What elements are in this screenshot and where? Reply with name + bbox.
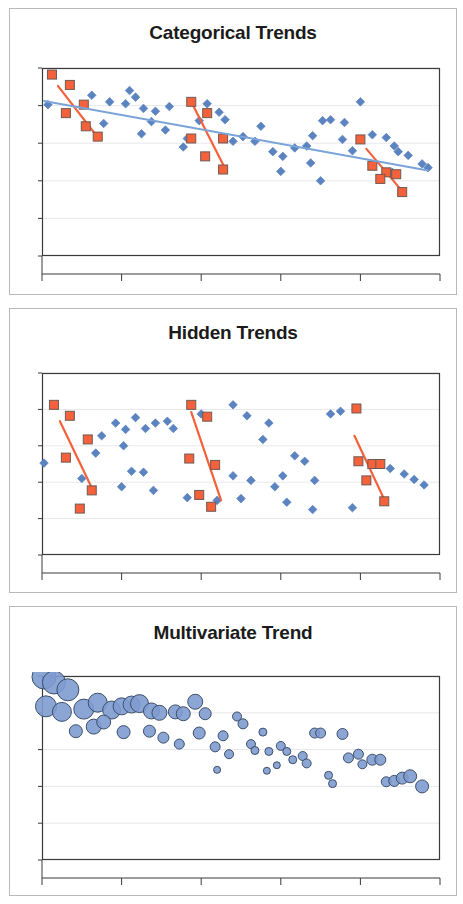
chart-panel-multivariate-trend: Multivariate Trend <box>9 606 457 896</box>
plot-area-hidden-trends <box>26 369 444 581</box>
scatter-plot-hidden-trends <box>26 369 444 581</box>
chart-title-categorical-trends: Categorical Trends <box>10 22 456 44</box>
chart-panel-hidden-trends: Hidden Trends <box>9 308 457 593</box>
scatter-plot-categorical-trends <box>26 64 444 282</box>
bubble-plot-multivariate-trend <box>26 672 444 886</box>
plot-area-categorical-trends <box>26 64 444 282</box>
chart-title-multivariate-trend: Multivariate Trend <box>10 622 456 644</box>
chart-panel-categorical-trends: Categorical Trends <box>9 8 457 295</box>
worksheet: Categorical Trends Hidden Trends Multiva… <box>0 0 463 904</box>
chart-title-hidden-trends: Hidden Trends <box>10 322 456 344</box>
plot-area-multivariate-trend <box>26 672 444 886</box>
